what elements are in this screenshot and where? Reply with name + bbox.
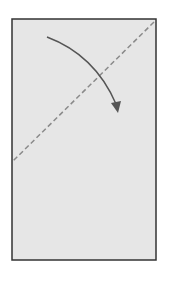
- paper-sheet: [12, 19, 156, 260]
- fold-diagram: [0, 0, 170, 281]
